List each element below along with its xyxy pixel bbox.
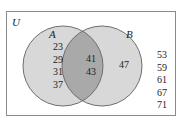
- value: 47: [116, 59, 132, 72]
- only-a-values: 23 29 31 37: [50, 41, 66, 91]
- set-a-label: A: [49, 29, 56, 40]
- value: 31: [50, 66, 66, 79]
- value: 43: [83, 66, 99, 79]
- intersection-values: 41 43: [83, 53, 99, 78]
- value: 67: [154, 87, 170, 100]
- value: 53: [154, 49, 170, 62]
- value: 61: [154, 74, 170, 87]
- value: 41: [83, 53, 99, 66]
- value: 59: [154, 62, 170, 75]
- only-b-values: 47: [116, 59, 132, 72]
- value: 37: [50, 79, 66, 92]
- outside-values: 53 59 61 67 71: [154, 49, 170, 112]
- value: 29: [50, 54, 66, 67]
- universe-label: U: [12, 17, 20, 28]
- value: 71: [154, 99, 170, 112]
- value: 23: [50, 41, 66, 54]
- set-b-label: B: [126, 29, 133, 40]
